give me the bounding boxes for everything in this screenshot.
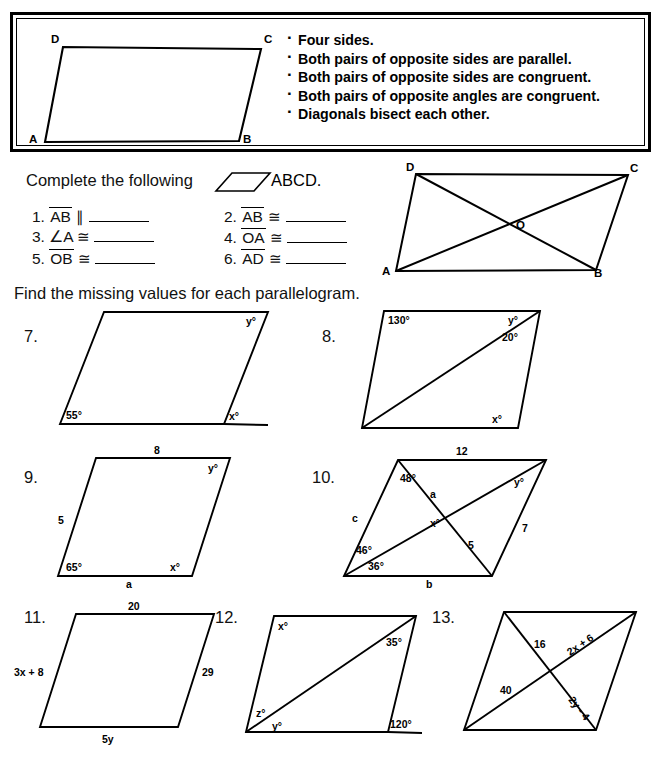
- angle-label-35: 35°: [386, 636, 402, 648]
- problem-number-9: 9.: [24, 468, 38, 487]
- angle-label-130: 130°: [388, 314, 410, 326]
- vertex-label-c: C: [630, 162, 638, 174]
- side-label-7: 7: [522, 522, 528, 534]
- relation-symbol: ≅: [78, 250, 91, 267]
- vertex-label-d: D: [406, 161, 414, 173]
- side-label-20: 20: [128, 600, 140, 612]
- angle-label-65: 65°: [66, 561, 82, 573]
- angle-label-x: x°: [492, 413, 502, 425]
- question-number: 6.: [224, 250, 237, 267]
- side-label-5: 5: [58, 514, 64, 526]
- property-item: Diagonals bisect each other.: [285, 105, 600, 124]
- side-label-29: 29: [202, 666, 214, 678]
- answer-blank[interactable]: [95, 250, 155, 264]
- property-item: Both pairs of opposite angles are congru…: [285, 87, 600, 106]
- answer-blank[interactable]: [286, 250, 346, 264]
- vertex-label-o: O: [516, 219, 525, 231]
- answer-blank[interactable]: [94, 228, 154, 242]
- problem-8-figure: 130° y° 20° x°: [340, 305, 580, 433]
- problem-11-figure: 20 3x + 8 29 5y: [18, 600, 238, 755]
- answer-blank[interactable]: [287, 229, 347, 243]
- problem-number-7: 7.: [24, 327, 38, 346]
- segment-notation: AB: [241, 207, 264, 226]
- vertex-label-a: A: [382, 265, 390, 277]
- instruction-complete: Complete the following: [26, 171, 193, 190]
- angle-label-x: x°: [229, 410, 239, 422]
- angle-label-48: 48°: [400, 472, 416, 484]
- angle-label-y: y°: [272, 720, 282, 732]
- problem-number-12: 12.: [215, 608, 238, 627]
- answer-blank[interactable]: [286, 208, 346, 222]
- relation-symbol: ≅: [269, 250, 282, 267]
- vertex-label-b: B: [243, 133, 251, 145]
- angle-label-36: 36°: [368, 560, 384, 572]
- question-number: 2.: [224, 208, 237, 225]
- worksheet-page: D C A B Four sides. Both pairs of opposi…: [0, 0, 661, 764]
- angle-label-y: y°: [514, 476, 524, 488]
- vertex-label-b: B: [594, 267, 602, 279]
- problem-12-figure: x° 35° z° y° 120°: [236, 600, 446, 755]
- instruction-find: Find the missing values for each paralle…: [14, 284, 360, 303]
- parallelogram-properties-box: D C A B Four sides. Both pairs of opposi…: [10, 12, 651, 152]
- question-3: 3. ∠A ≅: [32, 228, 154, 246]
- angle-label-x: x°: [170, 561, 180, 573]
- abcd-label: ABCD.: [271, 171, 321, 190]
- relation-symbol: ∥: [76, 208, 84, 225]
- angle-label-z: z°: [256, 707, 265, 719]
- relation-symbol: ≅: [268, 208, 281, 225]
- problem-10-figure: 12 c 7 b 48° a x° 5 46° 36° y°: [330, 448, 590, 588]
- question-6: 6. AD ≅: [224, 249, 346, 268]
- parallelogram-symbol-icon: [214, 170, 272, 194]
- angle-label-y: y°: [508, 314, 518, 326]
- side-label-c: c: [352, 512, 358, 524]
- question-number: 4.: [224, 229, 237, 246]
- question-2: 2. AB ≅: [224, 207, 346, 226]
- angle-label-x: x°: [430, 517, 440, 529]
- side-label-12: 12: [456, 445, 468, 457]
- segment-notation: OA: [241, 228, 265, 247]
- relation-symbol: ≅: [77, 228, 90, 245]
- question-4: 4. OA ≅: [224, 228, 347, 247]
- property-item: Four sides.: [285, 31, 600, 50]
- segment-label-16: 16: [534, 638, 546, 650]
- question-1: 1. AB ∥: [32, 207, 149, 226]
- side-label-5y: 5y: [102, 733, 114, 745]
- relation-symbol: ≅: [270, 229, 283, 246]
- angle-label-120: 120°: [390, 718, 412, 730]
- question-number: 5.: [32, 250, 45, 267]
- angle-label-20: 20°: [502, 331, 518, 343]
- segment-label-5: 5: [468, 539, 474, 551]
- side-label-b: b: [426, 578, 432, 590]
- parallelogram-diagram: D C A B: [21, 21, 291, 146]
- question-number: 3.: [32, 228, 45, 245]
- question-5: 5. OB ≅: [32, 249, 155, 268]
- angle-label-46: 46°: [356, 544, 372, 556]
- angle-label-55: 55°: [66, 409, 82, 421]
- segment-notation: OB: [49, 249, 73, 268]
- vertex-label-a: A: [29, 133, 37, 145]
- side-label-8: 8: [154, 444, 160, 456]
- answer-blank[interactable]: [89, 208, 149, 222]
- angle-notation: ∠A: [49, 228, 72, 245]
- vertex-label-c: C: [264, 33, 272, 45]
- question-number: 1.: [32, 208, 45, 225]
- side-label-3x8: 3x + 8: [14, 666, 44, 678]
- properties-list: Four sides. Both pairs of opposite sides…: [285, 31, 600, 124]
- angle-label-y: y°: [246, 315, 256, 327]
- problem-13-figure: 16 2x + 6 40 2y - 4: [450, 598, 660, 753]
- segment-label-a: a: [430, 488, 436, 500]
- parallelogram-abcd-diagonals: D C A B O: [380, 163, 650, 278]
- segment-notation: AD: [241, 249, 265, 268]
- property-item: Both pairs of opposite sides are paralle…: [285, 50, 600, 69]
- angle-label-y: y°: [208, 462, 218, 474]
- property-item: Both pairs of opposite sides are congrue…: [285, 68, 600, 87]
- problem-9-figure: 8 5 a 65° x° y°: [40, 448, 280, 583]
- problem-7-figure: 55° y° x°: [40, 305, 280, 433]
- angle-label-x: x°: [278, 620, 288, 632]
- problem-number-8: 8.: [322, 327, 336, 346]
- segment-notation: AB: [49, 207, 72, 226]
- vertex-label-d: D: [51, 33, 59, 45]
- segment-label-40: 40: [500, 684, 512, 696]
- side-label-a: a: [126, 578, 132, 590]
